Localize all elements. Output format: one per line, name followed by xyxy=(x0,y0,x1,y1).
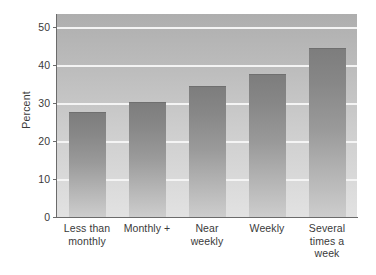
x-axis-tick-label-line: Monthly + xyxy=(117,222,177,235)
x-axis-tick-label: Severaltimes aweek xyxy=(297,222,357,260)
x-axis-tick-label-line: Less than xyxy=(57,222,117,235)
y-axis-tick: 0 xyxy=(30,211,57,223)
bars-layer xyxy=(57,14,357,217)
x-axis-tick-label-line: monthly xyxy=(57,235,117,248)
x-axis-tick-label: Monthly + xyxy=(117,222,177,235)
bar-chart-figure: Percent 50403020100 Less thanmonthlyMont… xyxy=(0,0,376,275)
plot-area xyxy=(57,14,357,217)
x-axis-line xyxy=(56,217,358,218)
bar xyxy=(69,112,106,217)
y-axis-tick: 40 xyxy=(30,59,57,71)
y-axis-tick-label: 0 xyxy=(44,211,50,223)
y-axis-tick: 30 xyxy=(30,97,57,109)
bar xyxy=(129,102,166,217)
x-axis-tick-label-line: times a xyxy=(297,235,357,248)
bar xyxy=(189,86,226,217)
x-axis-label-layer: Less thanmonthlyMonthly +NearweeklyWeekl… xyxy=(57,222,357,274)
x-axis-tick-label: Less thanmonthly xyxy=(57,222,117,247)
y-axis-line xyxy=(56,14,57,218)
y-axis-tick-label: 20 xyxy=(38,135,50,147)
x-axis-tick-label: Nearweekly xyxy=(177,222,237,247)
y-axis-tick: 20 xyxy=(30,135,57,147)
x-axis-tick-label: Weekly xyxy=(237,222,297,235)
x-axis-tick-label-line: Near xyxy=(177,222,237,235)
y-axis-tick: 50 xyxy=(30,21,57,33)
y-axis-tick-label: 10 xyxy=(38,173,50,185)
y-axis-tick-label: 40 xyxy=(38,59,50,71)
y-axis-tick: 10 xyxy=(30,173,57,185)
bar xyxy=(249,74,286,217)
x-axis-tick-label-line: Several xyxy=(297,222,357,235)
x-axis-tick-label-line: week xyxy=(297,247,357,260)
bar xyxy=(309,48,346,217)
x-axis-tick-label-line: weekly xyxy=(177,235,237,248)
y-axis-tick-label: 50 xyxy=(38,21,50,33)
y-axis-tick-label: 30 xyxy=(38,97,50,109)
x-axis-tick-label-line: Weekly xyxy=(237,222,297,235)
